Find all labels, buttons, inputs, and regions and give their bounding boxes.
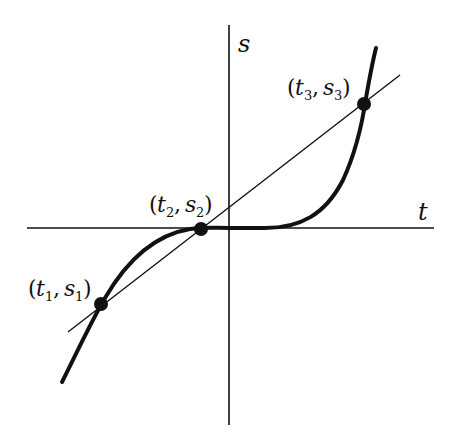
svg-text:t: t xyxy=(36,276,45,301)
diagram-figure: t s ( t 1 , s 1 ) ( t 2 , s 2 ) ( t 3 , … xyxy=(0,0,456,438)
svg-text:,: , xyxy=(174,192,181,217)
point-t3-s3 xyxy=(357,97,371,111)
svg-text:,: , xyxy=(53,276,60,301)
svg-text:): ) xyxy=(342,75,351,100)
label-t1-s1: ( t 1 , s 1 ) xyxy=(28,276,92,304)
t-axis-label: t xyxy=(418,198,428,226)
point-t2-s2 xyxy=(194,222,208,236)
svg-text:t: t xyxy=(295,75,304,100)
svg-text:t: t xyxy=(157,192,166,217)
label-t3-s3: ( t 3 , s 3 ) xyxy=(287,75,351,103)
svg-text:s: s xyxy=(323,75,334,100)
label-t2-s2: ( t 2 , s 2 ) xyxy=(149,192,213,220)
svg-text:,: , xyxy=(312,75,319,100)
point-t1-s1 xyxy=(94,297,108,311)
svg-text:): ) xyxy=(83,276,92,301)
secant-line xyxy=(68,75,400,332)
svg-text:): ) xyxy=(204,192,213,217)
svg-text:s: s xyxy=(64,276,75,301)
svg-text:s: s xyxy=(185,192,196,217)
s-axis-label: s xyxy=(238,30,250,58)
